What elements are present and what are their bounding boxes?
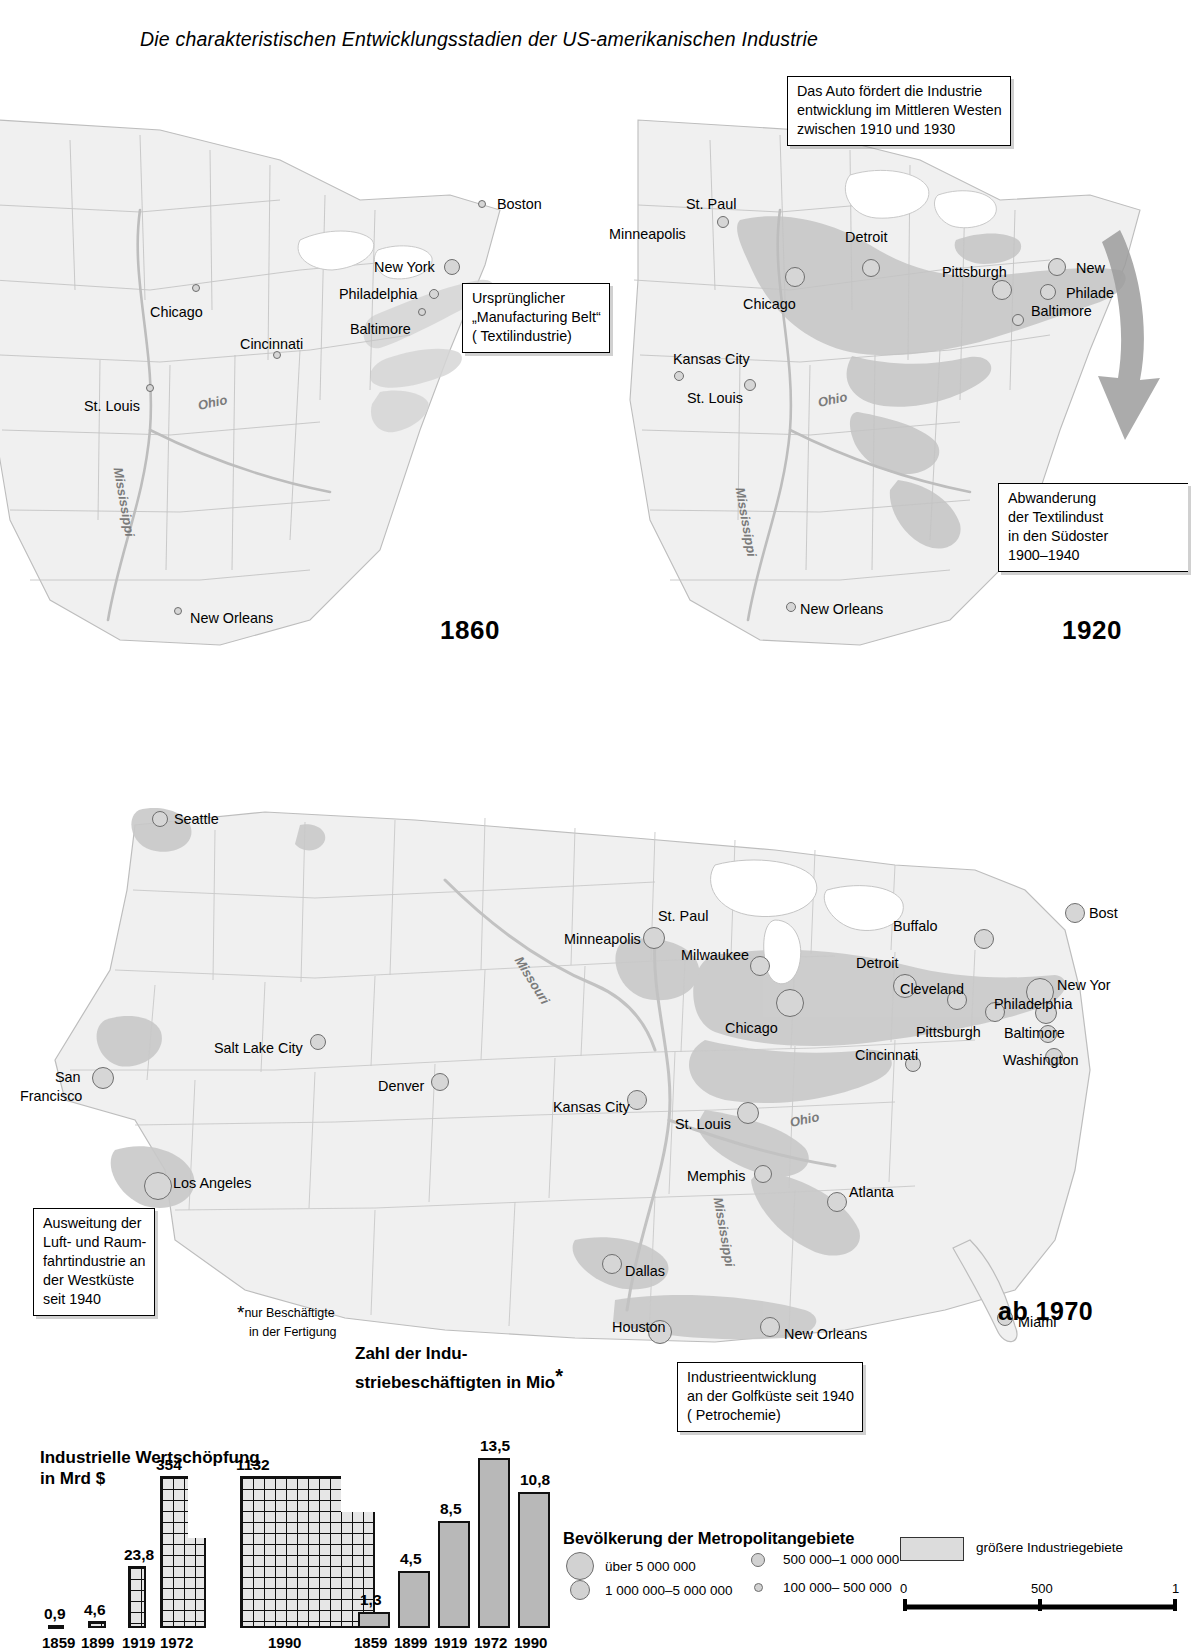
callout-line: 1900–1940 — [1008, 546, 1188, 565]
scale-tick-500: 500 — [1031, 1581, 1053, 1596]
legend-population-classes: über 5 000 0001 000 000–5 000 000500 000… — [563, 1552, 903, 1622]
legend-population-label: 100 000– 500 000 — [783, 1580, 892, 1595]
bar-employees — [518, 1492, 550, 1628]
legend-population-row: 500 000–1 000 000 — [741, 1552, 899, 1567]
axis-label-employees: 1972 — [474, 1634, 507, 1651]
year-stamp-1860: 1860 — [440, 615, 500, 646]
legend-industry-area-label: größere Industriegebiete — [976, 1540, 1123, 1555]
callout-line: Abwanderung — [1008, 489, 1188, 508]
bar-value-label: 1132 — [236, 1456, 270, 1474]
bar-value-label: 4,5 — [400, 1550, 422, 1568]
map-1860-overlay — [0, 100, 560, 660]
callout-west-coast-aerospace: Ausweitung der Luft- und Raum- fahrtindu… — [33, 1208, 155, 1316]
callout-manufacturing-belt: Ursprünglicher „Manufacturing Belt“ ( Te… — [462, 283, 610, 353]
callout-gulf-coast-petrochemistry: Industrieentwicklung an der Golfküste se… — [677, 1362, 863, 1432]
legend-population-row: 100 000– 500 000 — [741, 1580, 892, 1595]
callout-line: der Westküste — [43, 1271, 146, 1290]
legend-population-label: über 5 000 000 — [605, 1559, 696, 1574]
bar-employees — [358, 1612, 390, 1628]
bar-value-label: 1,3 — [360, 1591, 382, 1609]
callout-line: seit 1940 — [43, 1290, 146, 1309]
bar-value-label: 4,6 — [84, 1601, 106, 1619]
scale-tick-end: 1 — [1172, 1581, 1179, 1596]
callout-line: an der Golfküste seit 1940 — [687, 1387, 854, 1406]
legend-circle-symbol — [751, 1553, 765, 1567]
callout-line: Das Auto fördert die Industrie — [797, 82, 1002, 101]
bar-value-added — [48, 1625, 64, 1629]
bar-employees — [398, 1571, 430, 1628]
footnote-line: in der Fertigung — [249, 1325, 337, 1340]
axis-label-value-added: 1990 — [268, 1634, 301, 1651]
callout-automobile-industry: Das Auto fördert die Industrie entwicklu… — [787, 76, 1011, 146]
callout-textile-migration: Abwanderung der Textilindust in den Südo… — [998, 483, 1188, 572]
legend-circle-symbol — [570, 1580, 590, 1600]
scale-bar: 0 500 1 — [900, 1585, 1180, 1615]
callout-line: fahrtindustrie an — [43, 1252, 146, 1271]
chart-employees: 1,318594,518998,5191913,5197210,81990 — [352, 1380, 557, 1645]
axis-label-value-added: 1972 — [160, 1634, 193, 1651]
bar-value-label: 354 — [156, 1456, 182, 1474]
axis-label-value-added: 1859 — [42, 1634, 75, 1651]
bar-value-label: 23,8 — [124, 1546, 154, 1564]
axis-label-employees: 1859 — [354, 1634, 387, 1651]
callout-line: ( Petrochemie) — [687, 1406, 854, 1425]
callout-line: in den Südoster — [1008, 527, 1188, 546]
bar-value-added-step2 — [188, 1476, 206, 1538]
bar-value-label: 8,5 — [440, 1500, 462, 1518]
footnote-line: nur Beschäftigte — [244, 1306, 334, 1320]
axis-label-employees: 1899 — [394, 1634, 427, 1651]
map-1860 — [0, 100, 560, 660]
axis-label-value-added: 1899 — [81, 1634, 114, 1651]
bar-value-added — [128, 1566, 146, 1628]
axis-label-value-added: 1919 — [122, 1634, 155, 1651]
chart-footnote: *nur Beschäftigte in der Fertigung — [237, 1302, 337, 1340]
legend-population-title: Bevölkerung der Metropolitangebiete — [563, 1529, 855, 1548]
scale-tick-0: 0 — [900, 1581, 907, 1596]
legend-industry-area-swatch — [900, 1537, 964, 1561]
legend-circle-symbol — [566, 1552, 594, 1580]
bar-value-label: 0,9 — [44, 1605, 66, 1623]
callout-line: Ursprünglicher — [472, 289, 601, 308]
page-title: Die charakteristischen Entwicklungsstadi… — [140, 28, 818, 51]
bar-value-added — [88, 1621, 106, 1628]
bar-employees — [438, 1521, 470, 1628]
callout-line: Ausweitung der — [43, 1214, 146, 1233]
axis-label-employees: 1919 — [434, 1634, 467, 1651]
callout-line: entwicklung im Mittleren Westen — [797, 101, 1002, 120]
callout-line: zwischen 1910 und 1930 — [797, 120, 1002, 139]
bar-value-label: 13,5 — [480, 1437, 510, 1455]
chart-title-line: Industrielle Wertschöpfung — [40, 1447, 260, 1468]
legend-circle-symbol — [754, 1583, 763, 1592]
bar-value-label: 10,8 — [520, 1471, 550, 1489]
chart-title-line: Zahl der Indu- — [355, 1343, 563, 1364]
year-stamp-1970: ab 1970 — [998, 1297, 1093, 1326]
callout-line: der Textilindust — [1008, 508, 1188, 527]
map-1970 — [15, 770, 1185, 1380]
callout-line: ( Textilindustrie) — [472, 327, 601, 346]
chart-value-added: 0,94,623,8354113218591899191919721990 — [40, 1470, 340, 1645]
legend-population-label: 500 000–1 000 000 — [783, 1552, 899, 1567]
bar-employees — [478, 1458, 510, 1628]
legend-population-row: über 5 000 000 — [563, 1552, 696, 1580]
legend-population-label: 1 000 000–5 000 000 — [605, 1583, 733, 1598]
callout-line: Industrieentwicklung — [687, 1368, 854, 1387]
callout-line: „Manufacturing Belt“ — [472, 308, 601, 327]
year-stamp-1920: 1920 — [1062, 615, 1122, 646]
callout-line: Luft- und Raum- — [43, 1233, 146, 1252]
axis-label-employees: 1990 — [514, 1634, 547, 1651]
legend-population-row: 1 000 000–5 000 000 — [563, 1580, 733, 1600]
map-1970-graphic — [15, 770, 1185, 1380]
